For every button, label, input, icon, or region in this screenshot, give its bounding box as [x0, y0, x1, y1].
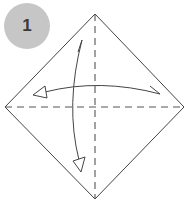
vertical-fold-arrow-icon [73, 40, 85, 172]
horizontal-fold-arrow-icon [33, 85, 160, 98]
origami-diagram [0, 0, 190, 199]
